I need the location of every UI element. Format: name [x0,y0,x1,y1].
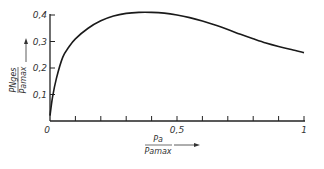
x-tick-labels: 00,51 [44,125,307,135]
y-tick-labels: 0,10,20,30,4 [33,10,48,100]
y-tick-label: 0,1 [33,90,47,100]
y-axis-label: PNges Pamax [9,66,28,93]
x-tick-label: 0 [44,125,50,135]
y-label-denominator: Pamax [19,66,28,93]
x-label-numerator: Pa [153,135,163,144]
x-tick-label: 1 [301,125,307,135]
x-ticks [75,116,304,121]
y-label-numerator: PNges [9,68,18,93]
y-tick-label: 0,3 [33,37,48,47]
axes [50,14,305,121]
y-tick-label: 0,4 [33,10,48,20]
x-label-arrowhead-icon [194,143,200,147]
y-tick-label: 0,2 [33,63,48,73]
chart: 00,51 0,10,20,30,4 Pa Pamax PNges Pamax [0,0,324,169]
x-tick-label: 0,5 [170,125,185,135]
y-ticks [50,15,55,95]
x-label-denominator: Pamax [144,147,171,156]
y-label-arrowhead-icon [24,38,28,44]
data-curve [50,12,304,115]
x-axis-label: Pa Pamax [144,135,200,156]
